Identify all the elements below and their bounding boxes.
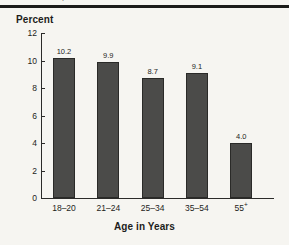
y-tick-label: 8 — [32, 83, 37, 93]
y-tick-label: 12 — [28, 28, 37, 38]
y-tick-mark — [42, 198, 45, 199]
clipped-header-fragment: . — [0, 0, 289, 4]
bar — [142, 78, 164, 198]
chart-figure: . Percent 024681012 10.29.98.79.14.0 18–… — [0, 0, 289, 245]
bar-value-label: 9.9 — [103, 51, 113, 60]
bar-slot: 9.1 — [186, 73, 208, 198]
y-tick-label: 10 — [28, 56, 37, 66]
y-axis-title: Percent — [16, 14, 53, 25]
bar-series: 10.29.98.79.14.0 — [41, 33, 274, 198]
bar — [53, 58, 75, 198]
bar-slot: 9.9 — [97, 62, 119, 198]
bar-slot: 10.2 — [53, 58, 75, 198]
bar — [230, 143, 252, 198]
x-category-label: 35–54 — [185, 203, 209, 213]
x-category-label: 55+ — [235, 203, 248, 213]
x-axis-line — [41, 198, 274, 199]
y-tick-label: 6 — [32, 111, 37, 121]
bar-slot: 4.0 — [230, 143, 252, 198]
y-tick: 0 — [41, 198, 45, 199]
plot-area: 024681012 10.29.98.79.14.0 — [41, 33, 274, 199]
bar-value-label: 4.0 — [236, 132, 246, 141]
bar — [186, 73, 208, 198]
y-tick-label: 4 — [32, 138, 37, 148]
bar-value-label: 10.2 — [57, 47, 72, 56]
y-tick-label: 0 — [32, 193, 37, 203]
x-axis-title: Age in Years — [0, 221, 289, 232]
bar-slot: 8.7 — [142, 78, 164, 198]
x-category-label: 21–24 — [96, 203, 120, 213]
bar-value-label: 8.7 — [147, 67, 157, 76]
bar-value-label: 9.1 — [192, 62, 202, 71]
y-tick-label: 2 — [32, 166, 37, 176]
top-horizontal-rule — [0, 5, 289, 8]
x-category-label: 18–20 — [52, 203, 76, 213]
bar — [97, 62, 119, 198]
x-category-label: 25–34 — [141, 203, 165, 213]
